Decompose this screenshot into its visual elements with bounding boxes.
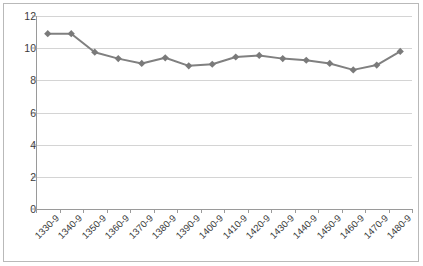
chart-container: 024681012 1330-91340-91350-91360-91370-9… — [0, 0, 423, 266]
data-point-marker — [185, 62, 192, 69]
data-point-marker — [209, 61, 216, 68]
data-point-marker — [279, 55, 286, 62]
data-point-marker — [232, 53, 239, 60]
data-point-marker — [44, 30, 51, 37]
data-point-marker — [115, 55, 122, 62]
data-series-line — [0, 0, 423, 266]
series-line-1 — [48, 34, 401, 70]
data-point-marker — [256, 52, 263, 59]
data-point-marker — [326, 60, 333, 67]
data-point-marker — [138, 60, 145, 67]
data-point-marker — [303, 57, 310, 64]
data-point-marker — [350, 66, 357, 73]
data-point-marker — [162, 54, 169, 61]
